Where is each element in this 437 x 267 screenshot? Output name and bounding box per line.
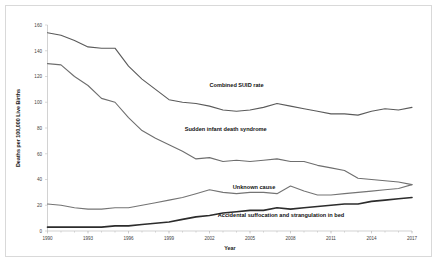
chart-figure: 020406080100120140160 199019931996199920… <box>0 0 437 267</box>
y-tick-label: 40 <box>37 177 43 182</box>
plot-area-wrapper: 020406080100120140160 199019931996199920… <box>0 0 437 267</box>
x-tick-label: 2002 <box>204 236 215 241</box>
series-line-0 <box>48 33 413 115</box>
x-tick-label: 1993 <box>83 236 94 241</box>
y-axis-tick-labels: 020406080100120140160 <box>34 23 42 234</box>
x-tick-label: 1990 <box>42 236 53 241</box>
series-line-2 <box>48 185 413 209</box>
x-tick-label: 1999 <box>164 236 175 241</box>
series-label-1: Sudden infant death syndrome <box>185 126 267 132</box>
y-tick-label: 0 <box>39 229 42 234</box>
x-tick-label: 2014 <box>366 236 377 241</box>
series-inline-labels: Combined SUID rateSudden infant death sy… <box>185 82 345 218</box>
x-tick-label: 2008 <box>285 236 296 241</box>
x-axis-tick-labels: 1990199319961999200220052008201120142017 <box>42 236 417 241</box>
y-tick-label: 80 <box>37 126 43 131</box>
suid-rate-line-chart: 020406080100120140160 199019931996199920… <box>0 0 437 267</box>
y-tick-label: 20 <box>37 203 43 208</box>
x-tick-label: 2017 <box>407 236 418 241</box>
y-tick-label: 140 <box>34 49 42 54</box>
y-tick-label: 160 <box>34 23 42 28</box>
x-tick-label: 2011 <box>326 236 336 241</box>
x-axis-title: Year <box>224 245 236 251</box>
x-axis-tick-marks <box>48 231 413 234</box>
series-label-3: Accidental suffocation and strangulation… <box>218 212 345 218</box>
series-label-0: Combined SUID rate <box>209 82 263 88</box>
y-axis-title: Deaths per 100,000 Live Births <box>15 89 21 167</box>
x-tick-label: 1996 <box>123 236 134 241</box>
x-tick-label: 2005 <box>245 236 256 241</box>
y-tick-label: 120 <box>34 74 42 79</box>
y-axis-tick-marks <box>45 25 48 231</box>
y-tick-label: 60 <box>37 152 43 157</box>
y-tick-label: 100 <box>34 100 42 105</box>
series-label-2: Unknown cause <box>233 184 276 190</box>
